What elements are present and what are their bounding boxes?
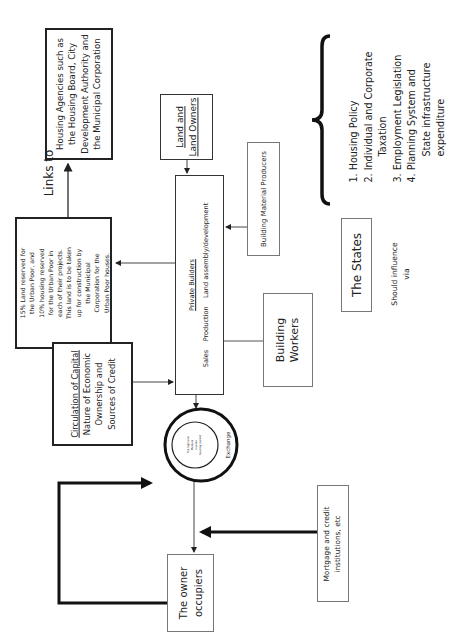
owner-occupiers-line: occupiers: [191, 567, 206, 620]
policy-item: Taxation: [376, 51, 391, 182]
reservation-line: This land is to be taken: [64, 247, 73, 319]
policy-item: expenditure: [434, 51, 449, 182]
circulation-line: Ownership and: [93, 350, 105, 438]
building-workers-line: Workers: [288, 318, 302, 363]
curly-brace: [312, 36, 330, 204]
owner-occupiers-line: The owner: [176, 567, 191, 620]
land-owners-line: Land and: [174, 98, 187, 157]
building-workers-line: Building: [274, 318, 288, 363]
land-owners-line: Land Owners: [187, 98, 200, 157]
links-to-label-wrap: Links to: [36, 148, 62, 198]
exchange-label-wrap: Exchange: [221, 425, 235, 465]
should-influence-wrap: Should influence via: [388, 240, 414, 308]
housing-agencies-box: Housing Agencies such as the Housing Boa…: [45, 28, 113, 160]
links-to-label: Links to: [42, 150, 57, 197]
housing-agencies-line: the Municipal Corporation: [91, 34, 103, 153]
the-states-label: The States: [349, 233, 364, 297]
exchange-label: Exchange: [225, 432, 232, 459]
private-builders-box: Private Builders Sales Production Land a…: [175, 175, 224, 395]
land-reservation-box: 15% Land reserved for the Urban Poor, an…: [15, 217, 112, 349]
building-material-producers-label: Building Material Producers: [259, 151, 268, 247]
reservation-line: 15% Land reserved for: [17, 247, 26, 319]
circulation-line: Nature of Economic: [80, 350, 92, 438]
circulation-of-capital-box: Circulation of Capital Nature of Economi…: [52, 342, 133, 446]
building-workers-box: Building Workers: [263, 293, 313, 387]
reservation-line: the Municipal: [82, 247, 91, 319]
policy-list-wrap: 1. Housing Policy 2. Individual and Corp…: [336, 32, 460, 202]
reservation-line: each of their projects.: [54, 247, 63, 319]
reservation-line: 10% housing reserved: [36, 247, 45, 319]
reservation-line: for the Urban Poor in: [45, 247, 54, 319]
owner-occupiers-box: The owner occupiers: [167, 554, 214, 632]
building-material-producers-box: Building Material Producers: [247, 142, 280, 256]
reservation-line: up for construction by: [73, 247, 82, 319]
circulation-line: Sources of Credit: [105, 350, 117, 438]
reservation-line: Urban Poor houses.: [101, 247, 110, 319]
private-builders-title: Private Builders: [186, 203, 200, 368]
housing-agencies-line: Housing Agencies such as: [54, 34, 66, 153]
private-builders-activities: Sales Production Land assembly/developme…: [200, 203, 214, 368]
the-states-box: The States: [341, 218, 372, 312]
mortgage-box: Mortgage and credit institutions, etc: [317, 485, 349, 602]
exchange-inner-line: housing market: [199, 435, 203, 455]
should-influence-line: Should influence: [389, 242, 401, 305]
reservation-line: Corporation for the: [91, 247, 100, 319]
should-influence-line: via: [401, 242, 413, 305]
exchange-inner-wrap: The high and Medium Income housing marke…: [180, 430, 210, 460]
policy-item: 2. Individual and Corporate: [362, 51, 377, 182]
land-owners-box: Land and Land Owners: [160, 94, 213, 160]
owners-loop-arrow: [59, 483, 167, 603]
policy-item: 1. Housing Policy: [347, 51, 362, 182]
housing-agencies-line: the Housing Board, City: [67, 34, 79, 153]
policy-item: 4. Planning System and: [405, 51, 420, 182]
policy-item: 3. Employment Legislation: [391, 51, 406, 182]
mortgage-line: institutions, etc: [333, 506, 344, 581]
reservation-line: the Urban Poor, and: [26, 247, 35, 319]
housing-agencies-line: Development Authority and: [79, 34, 91, 153]
mortgage-line: Mortgage and credit: [322, 506, 333, 581]
policy-item: State infrastructure: [420, 51, 435, 182]
circulation-title: Circulation of Capital: [68, 350, 80, 438]
